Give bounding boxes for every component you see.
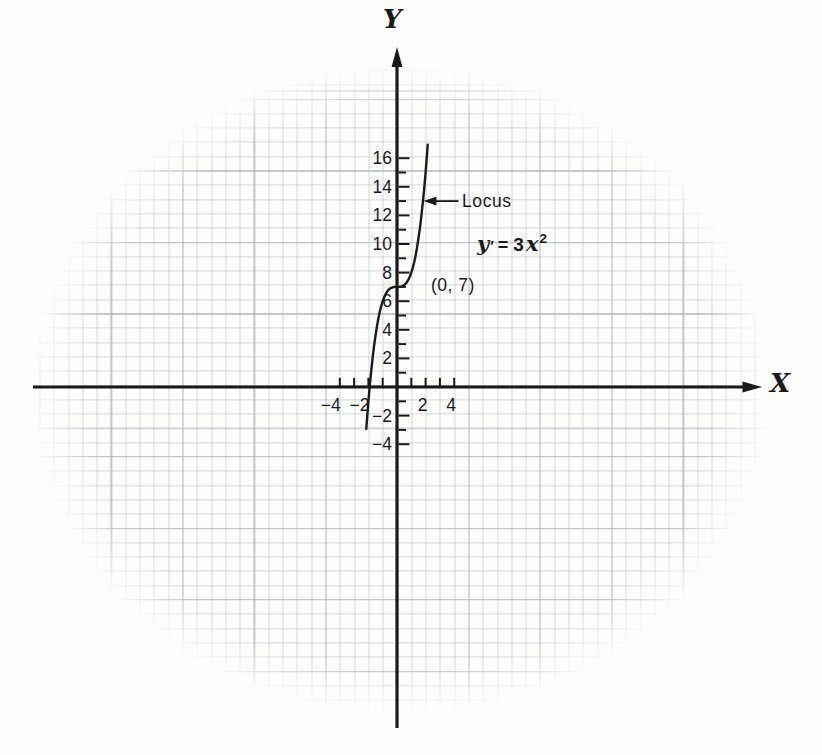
x-axis-title: X	[770, 370, 790, 396]
y-tick-label: 10	[373, 234, 393, 254]
x-tick-label: −4	[321, 395, 341, 415]
equation-equals: =	[498, 236, 509, 254]
x-tick-label: 2	[418, 395, 428, 415]
x-axis-arrowhead	[743, 382, 763, 393]
x-tick-label: 4	[446, 395, 456, 415]
y-tick-label: 12	[373, 205, 392, 225]
equation-variable-x: x	[526, 233, 539, 254]
equation-exponent: 2	[539, 232, 547, 246]
y-tick-label: −2	[372, 406, 392, 426]
figure: −4−224161412108642−2−4 Y X Locus (0, 7) …	[0, 0, 822, 755]
plot-svg: −4−224161412108642−2−4	[0, 0, 822, 755]
y-tick-label: 8	[382, 263, 392, 283]
locus-label: Locus	[462, 191, 512, 212]
equation-variable-y: y	[477, 233, 489, 254]
derivative-equation: y′=3x2	[477, 233, 546, 254]
y-tick-label: 2	[382, 348, 392, 368]
equation-coefficient: 3	[513, 235, 524, 254]
y-tick-label: −4	[372, 434, 392, 454]
y-axis-arrowhead	[392, 47, 403, 67]
point-coordinates-label: (0, 7)	[431, 275, 475, 296]
y-axis-title: Y	[383, 6, 402, 32]
y-tick-label: 16	[373, 148, 392, 168]
y-tick-label: 14	[373, 177, 393, 197]
locus-arrowhead	[423, 197, 436, 206]
equation-prime: ′	[490, 238, 494, 253]
y-tick-label: 4	[382, 320, 392, 340]
